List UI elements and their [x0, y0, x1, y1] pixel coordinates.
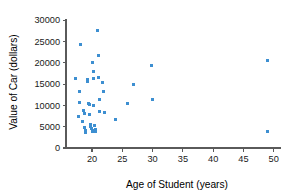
data-point [82, 109, 85, 112]
x-tick-label: 20 [87, 154, 97, 164]
y-axis: 050001000015000200002500030000 [34, 15, 66, 153]
data-point [77, 115, 80, 118]
data-point [84, 131, 87, 134]
data-points [74, 29, 269, 133]
y-tick-label: 10000 [34, 101, 60, 111]
y-tick-label: 25000 [34, 37, 60, 47]
data-point [150, 64, 153, 67]
data-point [91, 130, 94, 133]
data-point [92, 77, 95, 80]
x-tick-label: 35 [178, 154, 188, 164]
data-point [103, 111, 106, 114]
data-point [83, 126, 86, 129]
data-point [97, 76, 100, 79]
data-point [97, 54, 100, 57]
data-point [78, 101, 81, 104]
data-point [92, 104, 95, 107]
x-tick-label: 30 [147, 154, 157, 164]
data-point [79, 43, 82, 46]
data-point [94, 130, 97, 133]
data-point [93, 124, 96, 127]
data-point [74, 77, 77, 80]
data-point [102, 90, 105, 93]
x-tick-label: 50 [269, 154, 279, 164]
x-axis: 20253035404550 [66, 148, 281, 164]
data-point [92, 70, 95, 73]
data-point [88, 113, 91, 116]
y-tick-label: 0 [55, 143, 60, 153]
data-point [96, 29, 99, 32]
data-point [83, 112, 86, 115]
data-point [78, 90, 81, 93]
y-tick-label: 5000 [40, 122, 60, 132]
plot-area: 050001000015000200002500030000 202530354… [0, 0, 288, 195]
data-point [101, 81, 104, 84]
scatter-chart: 050001000015000200002500030000 202530354… [0, 0, 288, 195]
data-point [132, 83, 135, 86]
data-point [126, 102, 129, 105]
data-point [266, 59, 269, 62]
data-point [151, 98, 154, 101]
data-point [81, 120, 84, 123]
data-point [88, 103, 91, 106]
y-tick-label: 30000 [34, 15, 60, 25]
x-tick-label: 25 [117, 154, 127, 164]
data-point [114, 118, 117, 121]
data-point [98, 110, 101, 113]
x-tick-label: 40 [208, 154, 218, 164]
y-tick-label: 15000 [34, 79, 60, 89]
y-tick-label: 20000 [34, 58, 60, 68]
x-tick-label: 45 [238, 154, 248, 164]
y-axis-title: Value of Car (dollars) [8, 34, 19, 130]
data-point [98, 98, 101, 101]
x-axis-title: Age of Student (years) [126, 179, 228, 190]
data-point [91, 61, 94, 64]
data-point [86, 80, 89, 83]
data-point [266, 130, 269, 133]
